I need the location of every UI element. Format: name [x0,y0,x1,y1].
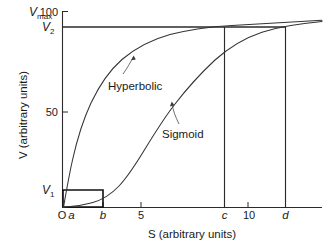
x-tick-label-a: a [68,209,74,221]
x-tick-label-d: d [282,209,289,221]
sigmoid-curve [64,22,323,208]
x-tick-label-b: b [100,209,107,221]
x-tick-label-10: 10 [243,209,255,221]
y-tick-label-50: 50 [46,106,58,118]
v1-subscript: 1 [50,190,55,199]
v1-label: V1 [42,183,55,199]
x-tick-label-origin: O [58,209,67,221]
v2-label: V2 [42,20,55,36]
hyperbolic-curve [64,20,323,207]
sigmoid-annotation-label: Sigmoid [162,128,204,140]
hyperbolic-annotation-label: Hyperbolic [108,80,163,92]
hyperbolic-arrow-icon [131,56,136,61]
y-axis-title: V (arbitrary units) [17,71,29,159]
saturation-curve-chart: 100 50 Vmax V2 V1 O a b 5 c 10 d S (arbi… [0,0,331,245]
x-tick-label-c: c [222,209,228,221]
x-tick-label-5: 5 [138,209,144,221]
v2-subscript: 2 [50,27,55,36]
figure-container: 100 50 Vmax V2 V1 O a b 5 c 10 d S (arbi… [0,0,331,245]
x-axis-title: S (arbitrary units) [148,228,236,240]
